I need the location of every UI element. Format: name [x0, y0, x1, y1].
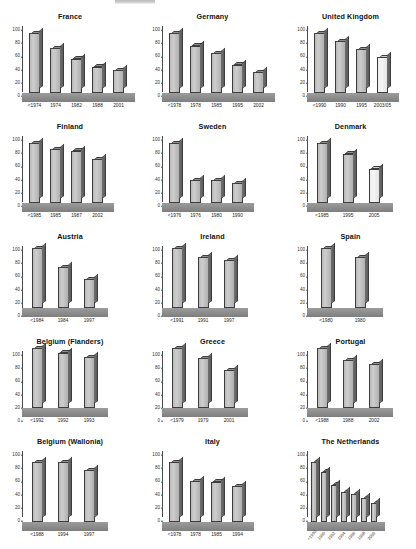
chart-floor — [22, 522, 108, 531]
bar-slot — [50, 242, 76, 308]
x-axis-tick-label: <1985 — [309, 213, 335, 225]
bar[interactable] — [84, 357, 95, 408]
bar[interactable] — [341, 492, 347, 522]
x-axis-tick-label: 1995 — [227, 103, 248, 115]
bar[interactable] — [343, 360, 354, 408]
bar[interactable] — [355, 257, 366, 308]
y-axis-line — [22, 246, 23, 312]
bar[interactable] — [232, 65, 243, 93]
bar[interactable] — [84, 279, 95, 308]
y-axis-tick-label: 20 — [15, 506, 20, 511]
bar[interactable] — [169, 33, 180, 93]
x-axis-tick-label: 1980 — [206, 213, 227, 225]
y-axis-tick-label: 80 — [155, 151, 160, 156]
chart-panel: The Netherlands100806040200<199019901992… — [285, 435, 416, 549]
bar[interactable] — [58, 267, 69, 308]
x-axis-tick-label: 1985 — [206, 103, 227, 115]
bar[interactable] — [172, 348, 183, 408]
bar[interactable] — [314, 33, 325, 93]
bar[interactable] — [50, 48, 61, 93]
y-axis-tick-label: 20 — [300, 506, 305, 511]
bar[interactable] — [211, 482, 222, 522]
bar[interactable] — [211, 180, 222, 203]
bar[interactable] — [224, 260, 235, 308]
bar[interactable] — [356, 49, 367, 93]
y-axis: 100806040200 — [291, 353, 307, 415]
bar[interactable] — [32, 462, 43, 522]
bar[interactable] — [190, 180, 201, 203]
y-axis-tick-label: 0 — [157, 204, 160, 209]
y-axis-tick-label: 80 — [15, 466, 20, 471]
bar[interactable] — [232, 183, 243, 203]
bar[interactable] — [335, 41, 346, 93]
bar[interactable] — [198, 358, 209, 408]
bar[interactable] — [361, 498, 367, 522]
bar[interactable] — [32, 348, 43, 408]
bar[interactable] — [377, 57, 388, 93]
bar[interactable] — [92, 67, 103, 93]
bar[interactable] — [50, 149, 61, 203]
y-axis-tick-label: 60 — [155, 164, 160, 169]
bar-series — [309, 137, 387, 203]
bar[interactable] — [211, 53, 222, 93]
x-axis-labels: <199219921993 — [24, 418, 102, 430]
bar[interactable] — [169, 143, 180, 203]
x-axis-labels: <197919792001 — [164, 418, 242, 430]
bar[interactable] — [29, 33, 40, 93]
bar[interactable] — [317, 348, 328, 408]
bar-slot — [66, 27, 87, 93]
bar-series — [24, 242, 102, 308]
x-axis-labels: <1978197819851994 — [164, 532, 248, 544]
bar[interactable] — [169, 462, 180, 522]
bar[interactable] — [331, 485, 337, 522]
bar[interactable] — [58, 353, 69, 408]
y-axis-line — [22, 136, 23, 202]
y-axis-tick-label: 40 — [15, 67, 20, 72]
y-axis-tick-label: 0 — [17, 204, 20, 209]
bar[interactable] — [190, 481, 201, 522]
x-axis-tick-label: 1988 — [335, 418, 361, 430]
bar[interactable] — [71, 59, 82, 93]
x-axis-tick-label: 1987 — [66, 213, 87, 225]
bar[interactable] — [92, 159, 103, 203]
y-axis-line — [307, 451, 308, 517]
x-axis-labels: <19781978198519952002 — [164, 103, 269, 115]
bar-slot — [216, 242, 242, 308]
y-axis-tick-label: 20 — [155, 506, 160, 511]
y-axis-line — [162, 451, 163, 517]
bar[interactable] — [32, 248, 43, 308]
bar[interactable] — [253, 72, 264, 93]
chart-floor — [22, 308, 108, 317]
bar[interactable] — [369, 169, 380, 203]
bar[interactable] — [369, 364, 380, 408]
bar[interactable] — [29, 143, 40, 203]
bar[interactable] — [321, 248, 332, 308]
y-axis: 100806040200 — [6, 453, 22, 515]
y-axis-tick-label: 40 — [15, 177, 20, 182]
bar[interactable] — [371, 503, 377, 522]
x-axis-tick-label: <1980 — [309, 318, 343, 330]
bar[interactable] — [224, 370, 235, 408]
bar[interactable] — [58, 462, 69, 522]
x-axis-tick-label: 1991 — [190, 318, 216, 330]
bar-series — [24, 137, 108, 203]
y-axis: 100806040200 — [146, 28, 162, 90]
bar[interactable] — [317, 143, 328, 203]
bar[interactable] — [190, 46, 201, 93]
bar[interactable] — [84, 470, 95, 522]
y-axis-line — [162, 26, 163, 92]
x-axis-tick-label: <1976 — [164, 213, 185, 225]
bar[interactable] — [321, 472, 327, 522]
bar[interactable] — [232, 486, 243, 522]
x-axis-tick-label: 1976 — [185, 213, 206, 225]
bar-slot — [24, 137, 45, 203]
bar[interactable] — [198, 257, 209, 308]
bar[interactable] — [113, 70, 124, 93]
bar-slot — [349, 456, 359, 522]
bar[interactable] — [351, 494, 357, 522]
x-axis-tick-label: 1994 — [227, 532, 248, 544]
bar[interactable] — [343, 154, 354, 203]
bar[interactable] — [71, 151, 82, 203]
bar[interactable] — [311, 462, 317, 522]
bar[interactable] — [172, 248, 183, 308]
